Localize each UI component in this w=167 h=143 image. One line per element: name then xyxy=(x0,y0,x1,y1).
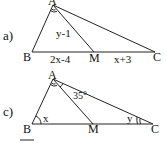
vertex-c: C xyxy=(151,122,159,136)
vertex-c: C xyxy=(153,50,161,64)
angle-mark-bam xyxy=(51,85,58,87)
side-ac xyxy=(53,79,153,124)
angle-mark-a-inner xyxy=(52,9,56,10)
label-mc: x+3 xyxy=(114,53,132,65)
part-label-c: c) xyxy=(3,104,13,119)
vertex-m: M xyxy=(88,122,99,136)
label-am: y-1 xyxy=(56,27,71,39)
label-bm: 2x-4 xyxy=(50,53,71,65)
geometry-figures: a) A B M C y-1 2x-4 x+3 c) A B M C 35° x… xyxy=(0,0,167,143)
figure-c: c) A B M C 35° x y xyxy=(3,68,159,140)
angle-mark-b xyxy=(36,116,41,124)
cevian-am xyxy=(53,79,93,124)
vertex-b: B xyxy=(23,122,31,136)
vertex-a: A xyxy=(48,68,57,82)
vertex-m: M xyxy=(89,51,100,65)
label-angle-35: 35° xyxy=(73,90,87,101)
vertex-a: A xyxy=(48,0,57,8)
angle-mark-mac xyxy=(60,84,63,88)
vertex-b: B xyxy=(23,50,31,64)
figure-a: a) A B M C y-1 2x-4 x+3 xyxy=(3,0,161,65)
angle-mark-bam-inner xyxy=(52,83,56,84)
side-ab xyxy=(32,5,53,52)
angle-mark-c xyxy=(137,117,138,124)
part-label-a: a) xyxy=(3,28,13,43)
angle-mark-a xyxy=(51,11,58,13)
angle-mark-c-inner xyxy=(140,119,141,125)
label-angle-x: x xyxy=(43,112,49,124)
label-angle-y: y xyxy=(127,112,133,124)
